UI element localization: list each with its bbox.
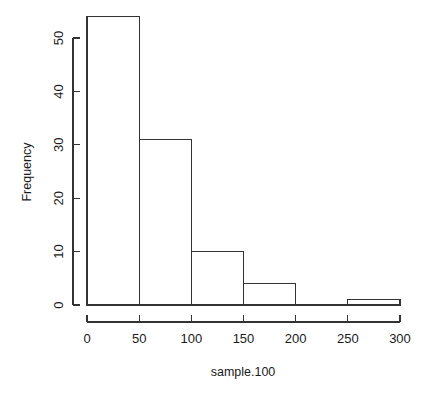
plot-canvas: 01020304050 050100150200250300 sample.10… — [0, 0, 438, 398]
y-tick-label: 30 — [51, 138, 66, 152]
x-tick-label: 150 — [233, 331, 255, 346]
histogram-bar — [191, 252, 243, 305]
y-axis: 01020304050 — [51, 31, 80, 309]
y-axis-ticks: 01020304050 — [51, 31, 80, 309]
x-axis-title: sample.100 — [211, 365, 276, 379]
histogram-bar — [139, 139, 191, 305]
histogram-bars — [87, 17, 400, 305]
x-tick-label: 300 — [389, 331, 411, 346]
histogram-plot: 01020304050 050100150200250300 sample.10… — [0, 0, 438, 398]
x-axis: 050100150200250300 — [83, 315, 410, 346]
histogram-bar — [348, 300, 400, 305]
x-tick-label: 250 — [337, 331, 359, 346]
y-axis-title: Frequency — [20, 142, 34, 202]
x-axis-ticks: 050100150200250300 — [83, 315, 410, 346]
y-tick-label: 0 — [51, 301, 66, 308]
y-tick-label: 10 — [51, 244, 66, 258]
y-tick-label: 20 — [51, 191, 66, 205]
x-tick-label: 50 — [132, 331, 146, 346]
y-tick-label: 50 — [51, 31, 66, 45]
y-tick-label: 40 — [51, 84, 66, 98]
x-tick-label: 200 — [285, 331, 307, 346]
x-tick-label: 100 — [180, 331, 202, 346]
histogram-bar — [244, 284, 296, 305]
histogram-bar — [87, 17, 139, 305]
x-tick-label: 0 — [83, 331, 90, 346]
